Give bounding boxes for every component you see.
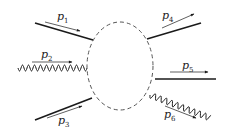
feynman-scattering-diagram: p1p2p3p4p5p6 — [0, 0, 229, 127]
leg-p4: p4 — [147, 9, 201, 39]
momentum-label-p2: p2 — [41, 48, 53, 63]
fermion-line — [147, 23, 201, 39]
leg-p2: p2 — [18, 48, 87, 71]
interaction-blob — [87, 22, 153, 110]
photon-line — [150, 94, 211, 120]
momentum-label-p6: p6 — [164, 108, 176, 123]
leg-p1: p1 — [35, 10, 93, 40]
leg-p3: p3 — [35, 98, 92, 127]
leg-p5: p5 — [155, 59, 216, 79]
photon-line — [18, 65, 87, 71]
leg-p6: p6 — [150, 94, 211, 123]
momentum-label-p5: p5 — [182, 59, 194, 74]
momentum-label-p4: p4 — [162, 9, 174, 24]
momentum-arrow-icon — [45, 22, 80, 31]
momentum-label-p1: p1 — [57, 10, 69, 25]
fermion-line — [35, 23, 93, 40]
momentum-label-p3: p3 — [58, 114, 70, 127]
